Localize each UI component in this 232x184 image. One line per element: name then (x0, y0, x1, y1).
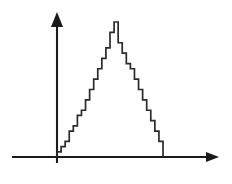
step-histogram-chart (0, 0, 232, 184)
figure-container (0, 0, 232, 184)
arrow-right-icon (206, 152, 219, 162)
arrow-up-icon (51, 12, 63, 27)
histogram-step-outline (57, 22, 163, 157)
